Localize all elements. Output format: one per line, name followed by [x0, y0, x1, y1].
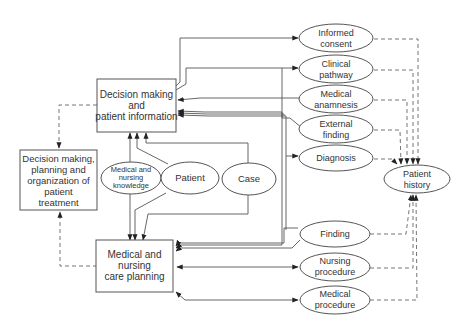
node-external-finding[interactable]: Externalfinding: [299, 115, 373, 143]
node-informed-consent[interactable]: Informedconsent: [299, 24, 373, 52]
node-patient-history[interactable]: Patienthistory: [384, 165, 450, 193]
svg-text:Patient: Patient: [175, 172, 205, 183]
svg-text:Finding: Finding: [320, 229, 350, 239]
svg-text:Nursingprocedure: Nursingprocedure: [315, 256, 356, 277]
svg-text:Clinicalpathway: Clinicalpathway: [319, 59, 353, 80]
svg-text:Medicalprocedure: Medicalprocedure: [315, 289, 356, 310]
node-diagnosis[interactable]: Diagnosis: [299, 145, 373, 171]
node-decision-planning[interactable]: Decision making,planning andorganization…: [20, 150, 97, 210]
node-care-planning[interactable]: Medical andnursingcare planning: [96, 240, 173, 292]
node-medical-anamnesis[interactable]: Medicalanamnesis: [299, 85, 373, 113]
node-knowledge[interactable]: Medical andnursingknowledge: [101, 162, 161, 194]
diagram-canvas: Decision makingandpatient information De…: [0, 0, 466, 326]
node-nursing-procedure[interactable]: Nursingprocedure: [300, 253, 370, 281]
node-patient[interactable]: Patient: [161, 162, 219, 194]
node-clinical-pathway[interactable]: Clinicalpathway: [299, 55, 373, 83]
node-case[interactable]: Case: [222, 163, 276, 195]
svg-text:Patienthistory: Patienthistory: [403, 169, 432, 190]
node-finding[interactable]: Finding: [300, 221, 370, 247]
svg-text:Diagnosis: Diagnosis: [316, 153, 356, 163]
svg-text:Case: Case: [238, 173, 260, 184]
svg-text:Externalfinding: Externalfinding: [319, 119, 352, 140]
node-decision-info[interactable]: Decision makingandpatient information: [95, 79, 177, 132]
svg-text:Informedconsent: Informedconsent: [318, 28, 354, 49]
node-medical-procedure[interactable]: Medicalprocedure: [300, 286, 370, 314]
